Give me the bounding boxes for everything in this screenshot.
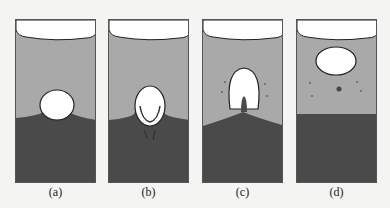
panel-c-label: (c) <box>202 185 283 200</box>
bubble <box>135 86 165 126</box>
panel-a-label: (a) <box>15 185 96 200</box>
panel-c <box>202 19 283 183</box>
panel-d-label: (d) <box>296 185 377 200</box>
bubble <box>40 90 74 120</box>
panel-d <box>296 19 377 183</box>
panel-b-label: (b) <box>108 185 189 200</box>
bubble <box>316 47 356 75</box>
panel-a <box>15 19 96 183</box>
panel-b <box>108 19 189 183</box>
